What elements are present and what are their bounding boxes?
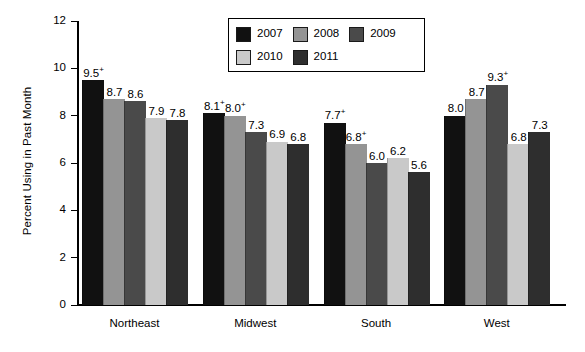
legend-item[interactable]: 2007 (236, 27, 283, 42)
legend-swatch-icon (293, 50, 308, 65)
bar-value-label: 8.7 (107, 87, 123, 99)
bar-value-label: 9.5+ (83, 68, 104, 80)
bar[interactable]: 8.0+ (224, 116, 246, 305)
bar-group: 9.5+8.78.67.97.8 (82, 21, 187, 305)
legend-label: 2010 (257, 51, 283, 63)
bar[interactable]: 6.8 (507, 144, 529, 305)
bar-value-label: 7.8 (170, 108, 186, 120)
bar-chart: Percent Using in Past Month 024681012 9.… (0, 0, 585, 352)
legend-label: 2007 (257, 28, 283, 40)
legend-item[interactable]: 2011 (293, 50, 339, 65)
bar[interactable]: 6.9 (266, 142, 288, 305)
y-tick-label: 2 (26, 252, 66, 264)
legend-row: 200720082009 (236, 24, 406, 44)
bar-value-label: 7.7+ (325, 110, 346, 122)
bar[interactable]: 8.0 (444, 116, 466, 305)
y-tick-label: 4 (26, 204, 66, 216)
bar-value-label: 8.7 (469, 87, 485, 99)
bar-value-label: 8.0+ (225, 103, 246, 115)
bar-value-label: 9.3+ (487, 72, 508, 84)
legend-swatch-icon (236, 50, 251, 65)
bar-value-label: 6.8+ (346, 132, 367, 144)
bar-value-label: 7.9 (149, 106, 165, 118)
bar[interactable]: 7.7+ (324, 123, 346, 305)
bar[interactable]: 7.3 (528, 132, 550, 305)
legend-label: 2011 (314, 51, 339, 63)
legend-label: 2009 (370, 28, 396, 40)
legend-swatch-icon (236, 27, 251, 42)
chart-legend: 200720082009 20102011 (228, 18, 425, 72)
bar-value-label: 8.0 (448, 103, 464, 115)
bar[interactable]: 8.6 (124, 101, 146, 305)
bar[interactable]: 8.7 (103, 99, 125, 305)
bar[interactable]: 6.8 (287, 144, 309, 305)
bar[interactable]: 8.1+ (203, 113, 225, 305)
y-tick-label: 10 (26, 62, 66, 74)
legend-swatch-icon (293, 27, 308, 42)
x-axis-group-label: Midwest (185, 318, 325, 330)
legend-swatch-icon (349, 27, 364, 42)
bar-value-label: 8.6 (128, 89, 144, 101)
legend-item[interactable]: 2009 (349, 27, 396, 42)
legend-label: 2008 (314, 28, 340, 40)
bar[interactable]: 6.0 (366, 163, 388, 305)
bar[interactable]: 6.8+ (345, 144, 367, 305)
bar-value-label: 6.8 (511, 132, 527, 144)
bar[interactable]: 6.2 (387, 158, 409, 305)
bar-group: 8.08.79.3+6.87.3 (444, 21, 549, 305)
bar-value-label: 8.1+ (204, 101, 225, 113)
bar[interactable]: 8.7 (465, 99, 487, 305)
bar-value-label: 6.0 (369, 151, 385, 163)
bar-value-label: 7.3 (532, 120, 548, 132)
bar[interactable]: 9.3+ (486, 85, 508, 305)
x-axis-group-label: South (306, 318, 446, 330)
y-tick-label: 0 (26, 299, 66, 311)
bar-value-label: 6.9 (269, 129, 285, 141)
y-tick-label: 8 (26, 110, 66, 122)
y-tick-label: 6 (26, 157, 66, 169)
bar-value-label: 7.3 (248, 120, 264, 132)
y-tick-label: 12 (26, 15, 66, 27)
bar[interactable]: 5.6 (408, 172, 430, 305)
bar[interactable]: 7.9 (145, 118, 167, 305)
bar[interactable]: 7.3 (245, 132, 267, 305)
bar-value-label: 6.2 (390, 146, 406, 158)
legend-item[interactable]: 2010 (236, 50, 283, 65)
x-axis-group-label: Northeast (65, 318, 205, 330)
bar-value-label: 5.6 (411, 160, 427, 172)
bar[interactable]: 9.5+ (82, 80, 104, 305)
bar-value-label: 6.8 (290, 132, 306, 144)
bar[interactable]: 7.8 (166, 120, 188, 305)
legend-item[interactable]: 2008 (293, 27, 340, 42)
legend-row: 20102011 (236, 47, 348, 67)
x-axis-group-label: West (427, 318, 567, 330)
